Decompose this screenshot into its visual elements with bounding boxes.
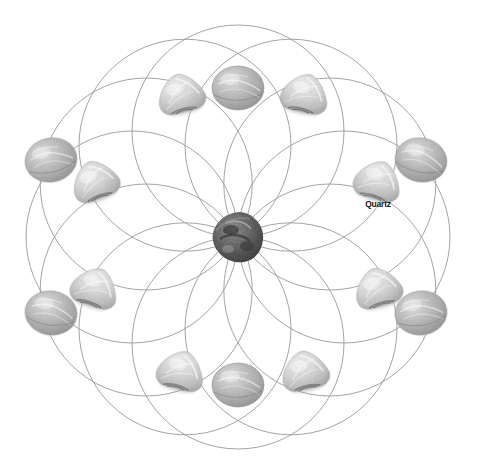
crystal-grid-canvas: Quartz — [0, 0, 479, 468]
crystal-grid-figure: Quartz — [0, 0, 479, 468]
quartz-label: Quartz — [365, 199, 391, 209]
oval-stone-top — [212, 66, 264, 110]
oval-stone-bottom — [212, 363, 264, 407]
